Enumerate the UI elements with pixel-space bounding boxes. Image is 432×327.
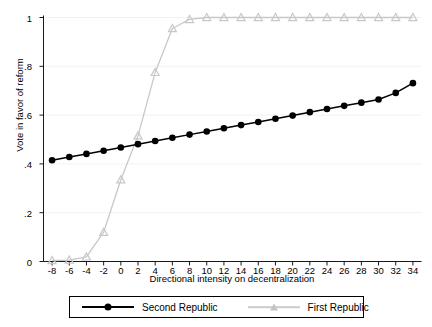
data-point-circle — [255, 119, 262, 126]
legend-item-second-republic: Second Republic — [82, 297, 218, 317]
triangle-marker-icon — [270, 304, 278, 311]
data-point-circle — [358, 99, 365, 106]
data-point-circle — [221, 125, 228, 132]
data-point-circle — [272, 115, 279, 122]
data-point-circle — [375, 96, 382, 103]
circle-marker-icon — [105, 304, 112, 311]
data-point-circle — [238, 122, 245, 129]
data-point-circle — [118, 144, 125, 151]
data-point-circle — [341, 103, 348, 110]
gridlines — [44, 18, 422, 262]
data-point-circle — [324, 106, 331, 113]
series-second-republic — [49, 80, 416, 164]
legend-swatch-circle-icon — [82, 300, 134, 314]
legend-label-first-republic: First Republic — [308, 302, 369, 313]
chart-legend: Second Republic First Republic — [69, 296, 364, 318]
x-axis-title: Directional intensity on decentralizatio… — [43, 273, 421, 284]
legend-swatch-triangle-icon — [248, 300, 300, 314]
data-point-circle — [289, 112, 296, 119]
axis-lines — [44, 16, 422, 262]
legend-label-second-republic: Second Republic — [142, 302, 218, 313]
data-point-circle — [392, 90, 399, 97]
data-point-circle — [135, 141, 142, 148]
data-point-circle — [66, 154, 73, 161]
data-point-circle — [83, 151, 90, 158]
chart-container: Vote in favor of reform 0.2.4.6.81 -8-6-… — [0, 0, 432, 327]
data-point-circle — [186, 131, 193, 138]
axis-tick-marks — [40, 18, 413, 266]
data-point-circle — [307, 109, 314, 116]
legend-item-first-republic: First Republic — [248, 297, 369, 317]
series-line — [52, 18, 413, 261]
data-point-circle — [100, 147, 107, 154]
data-point-circle — [169, 134, 176, 141]
data-point-circle — [203, 128, 210, 135]
data-point-circle — [410, 80, 417, 87]
series-first-republic — [48, 14, 417, 264]
data-point-circle — [49, 157, 56, 164]
data-point-circle — [152, 138, 159, 145]
